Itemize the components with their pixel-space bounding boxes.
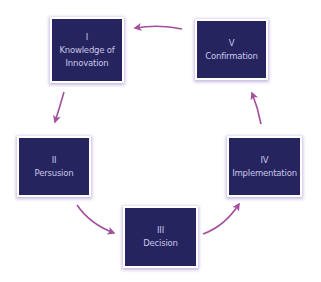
stage-box-implementation: IV Implementation	[227, 136, 302, 197]
stage-numeral: I	[86, 31, 88, 44]
stage-label: Persusion	[35, 167, 74, 180]
stage-label: Innovation	[65, 57, 108, 70]
stage-numeral: V	[229, 37, 235, 50]
stage-label: Confirmation	[205, 50, 258, 63]
stage-box-knowledge: I Knowledge of Innovation	[50, 17, 124, 83]
stage-label: Knowledge of	[59, 44, 114, 57]
arrow-ii-to-iii	[77, 205, 114, 233]
stage-numeral: II	[52, 154, 57, 167]
stage-numeral: III	[157, 224, 164, 237]
stage-box-confirmation: V Confirmation	[195, 19, 268, 80]
stage-numeral: IV	[261, 154, 269, 167]
stage-label: Decision	[143, 237, 178, 250]
cycle-diagram: I Knowledge of Innovation V Confirmation…	[0, 0, 321, 282]
arrow-iv-to-v	[252, 93, 261, 124]
arrow-i-to-ii	[55, 92, 64, 122]
arrow-v-to-i	[135, 26, 182, 29]
stage-label: Implementation	[232, 167, 297, 180]
stage-box-decision: III Decision	[123, 206, 198, 268]
arrow-iii-to-iv	[203, 204, 239, 234]
stage-box-persuasion: II Persusion	[17, 136, 91, 197]
